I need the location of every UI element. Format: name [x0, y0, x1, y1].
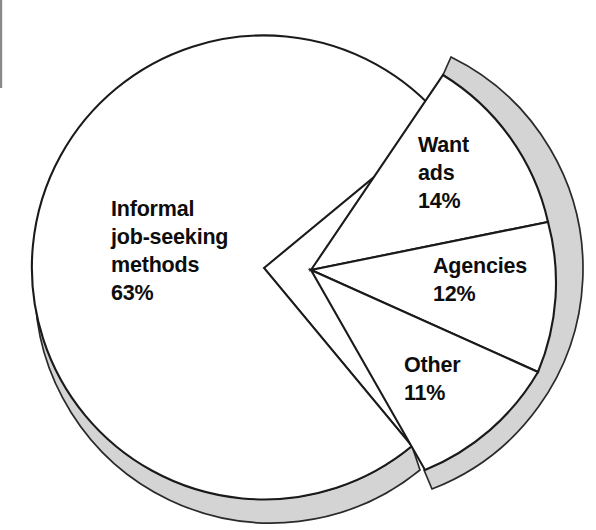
- pie-label-agencies: Agencies 12%: [433, 253, 527, 309]
- pie-chart-figure: Informal job-seeking methods 63% Want ad…: [0, 0, 596, 530]
- page-edge-artifact: [0, 0, 2, 88]
- pie-label-informal: Informal job-seeking methods 63%: [111, 196, 228, 308]
- pie-label-want-ads: Want ads 14%: [418, 132, 469, 216]
- pie-label-other: Other 11%: [404, 352, 460, 408]
